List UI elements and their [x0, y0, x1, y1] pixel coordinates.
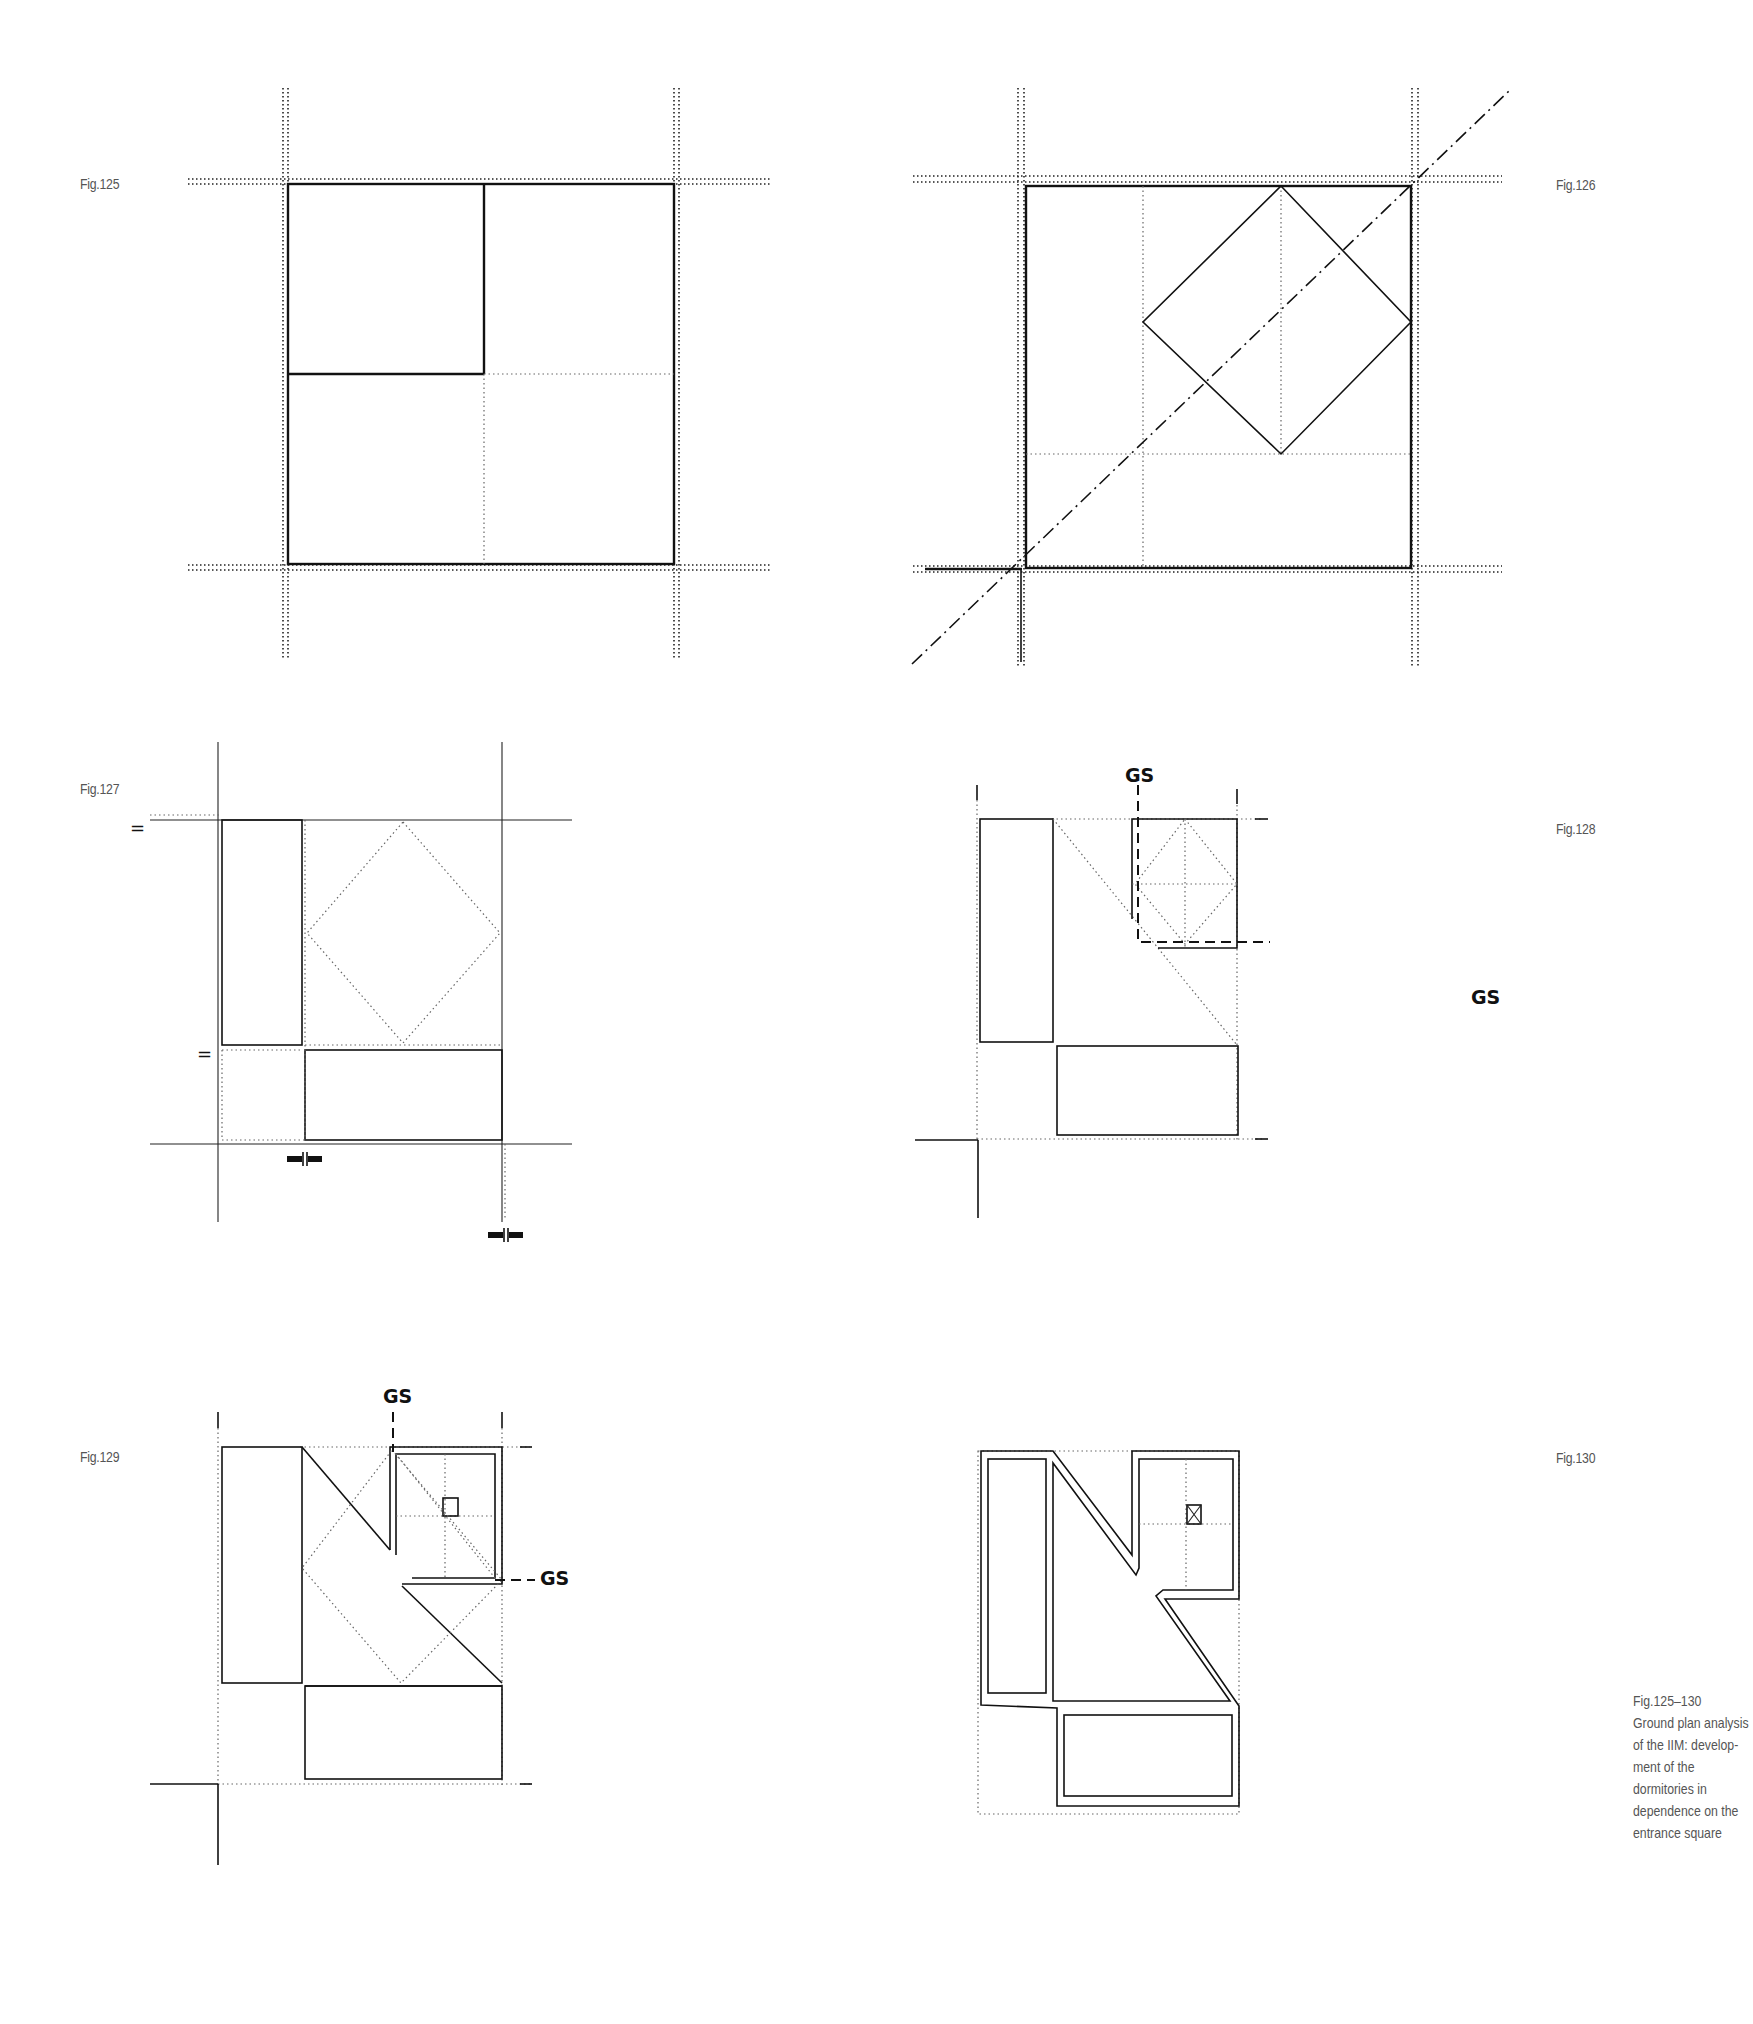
dimension-arrow-icon [488, 1232, 503, 1238]
fig126-drawing [912, 88, 1510, 668]
fig128-drawing [915, 785, 1270, 1218]
fig130-drawing [978, 1451, 1239, 1814]
fig127-drawing [150, 742, 572, 1242]
fig125-drawing [188, 88, 770, 660]
dimension-arrow-icon [287, 1156, 302, 1162]
fig129-drawing [150, 1412, 535, 1865]
